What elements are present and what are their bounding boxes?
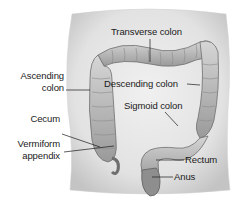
label-ascending-colon-line1: Ascending bbox=[14, 71, 64, 81]
label-sigmoid-colon: Sigmoid colon bbox=[124, 101, 182, 111]
label-rectum: Rectum bbox=[185, 155, 217, 165]
label-anus: Anus bbox=[174, 172, 195, 182]
label-ascending-colon-line2: colon bbox=[14, 83, 64, 93]
label-descending-colon: Descending colon bbox=[104, 79, 178, 89]
colon-anatomy-diagram: Transverse colon Ascending colon Descend… bbox=[0, 0, 241, 206]
label-transverse-colon: Transverse colon bbox=[111, 27, 182, 37]
label-vermiform-appendix-line2: appendix bbox=[8, 151, 60, 161]
label-vermiform-appendix-line1: Vermiform bbox=[8, 139, 60, 149]
label-cecum: Cecum bbox=[14, 114, 60, 124]
